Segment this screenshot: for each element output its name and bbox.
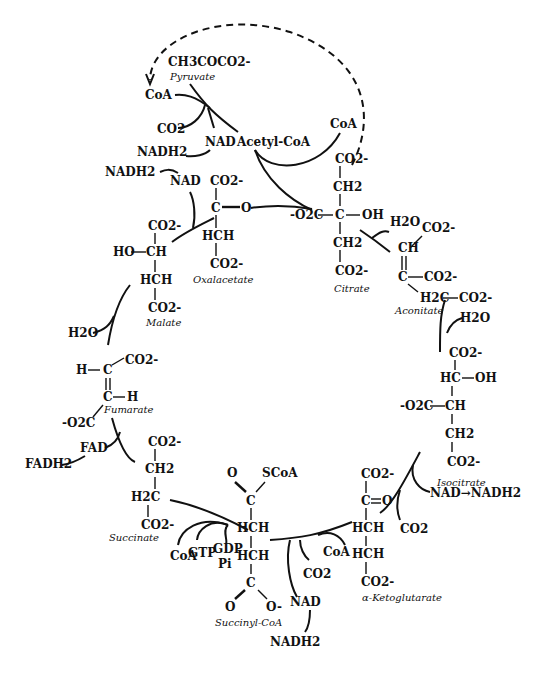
a-ketoglutarate-label: α-Ketoglutarate xyxy=(362,592,442,603)
aconitate-label: Aconitate xyxy=(394,305,443,316)
coa-released: CoA xyxy=(330,117,358,131)
akg-hch2: HCH xyxy=(352,547,384,561)
oxalacetate-label: Oxalacetate xyxy=(193,274,253,285)
acon-co2: CO2- xyxy=(422,221,455,235)
succ-ch2: CH2 xyxy=(145,462,174,476)
acetyl-coa-label: Acetyl-CoA xyxy=(236,135,311,149)
acon-c: C xyxy=(398,270,408,284)
coa-ketoglutarate: CoA xyxy=(323,545,351,559)
cit-co2b: CO2- xyxy=(335,264,368,278)
iso-oh: OH xyxy=(475,371,497,385)
akg-c: C xyxy=(361,494,371,508)
coa-cofactor: CoA xyxy=(145,88,173,102)
co2-ketoglutarate: CO2 xyxy=(303,567,331,581)
oxal-hch: HCH xyxy=(202,229,234,243)
iso-hc: HC xyxy=(440,371,461,385)
fumarate-label: Fumarate xyxy=(103,404,154,415)
cit-ch2: CH2 xyxy=(333,180,362,194)
cit-co2: CO2- xyxy=(335,152,368,166)
h2o-isocitrate: H2O xyxy=(460,311,490,325)
nadh2-malate: NADH2 xyxy=(105,165,155,179)
akg-hch: HCH xyxy=(352,521,384,535)
acon-co2b: CO2- xyxy=(424,270,457,284)
nad-nadh2-isocitrate: NAD→NADH2 xyxy=(430,486,521,500)
h2o-aconitate: H2O xyxy=(390,215,420,229)
iso-ch2: CH2 xyxy=(445,427,474,441)
fad: FAD xyxy=(80,441,108,455)
fum-h2: H xyxy=(127,390,138,404)
gtp: GTP xyxy=(188,546,216,560)
malate-co2b: CO2- xyxy=(148,301,181,315)
succ-co2b: CO2- xyxy=(141,518,174,532)
co2-cofactor: CO2 xyxy=(157,122,185,136)
fum-o2c: -O2C xyxy=(62,416,95,430)
pyruvate-label: Pyruvate xyxy=(169,71,215,82)
pyruvate-formula: CH3COCO2- xyxy=(168,55,251,69)
cit-oh: OH xyxy=(362,208,384,222)
akg-co2: CO2- xyxy=(361,467,394,481)
scoa-hch2: HCH xyxy=(237,549,269,563)
succinate-label: Succinate xyxy=(109,532,159,543)
scoa-o-minus: O- xyxy=(266,600,282,614)
scoa-c2: C xyxy=(246,576,256,590)
scoa-o: O xyxy=(227,466,237,480)
succinyl-coa-label: Succinyl-CoA xyxy=(215,617,282,628)
malate-hch: HCH xyxy=(140,273,172,287)
fum-co2: CO2- xyxy=(125,353,158,367)
nad-ketoglutarate: NAD xyxy=(290,595,321,609)
iso-ch: CH xyxy=(445,399,466,413)
fum-c1: C xyxy=(103,363,113,377)
oxal-o: O xyxy=(241,201,251,215)
malate-ch: CH xyxy=(146,245,167,259)
iso-o2c: -O2C xyxy=(400,399,433,413)
scoa-c: C xyxy=(246,494,256,508)
nadh2-ketoglutarate: NADH2 xyxy=(270,635,320,649)
nadh2-cofactor: NADH2 xyxy=(137,145,187,159)
pi: Pi xyxy=(218,557,232,571)
scoa-o2: O xyxy=(225,600,235,614)
malate-co2: CO2- xyxy=(148,219,181,233)
nad-malate: NAD xyxy=(170,174,201,188)
citrate-label: Citrate xyxy=(334,283,370,294)
oxal-c: C xyxy=(211,201,221,215)
iso-co2: CO2- xyxy=(449,346,482,360)
krebs-cycle-diagram: CH3COCO2- Pyruvate CoA CO2 NAD Acetyl-Co… xyxy=(0,0,540,676)
nad-cofactor: NAD xyxy=(205,135,236,149)
acon-co2c: CO2- xyxy=(459,291,492,305)
scoa-hch: HCH xyxy=(237,521,269,535)
co2-isocitrate: CO2 xyxy=(400,522,428,536)
succ-h2c: H2C xyxy=(131,490,160,504)
oxal-co2: CO2- xyxy=(210,174,243,188)
malate-label: Malate xyxy=(145,317,181,328)
cit-c: C xyxy=(335,208,345,222)
acon-ch: CH xyxy=(398,241,419,255)
arrowhead xyxy=(146,74,154,84)
cit-ch2b: CH2 xyxy=(333,236,362,250)
fum-h: H xyxy=(76,363,87,377)
scoa-scoa: SCoA xyxy=(262,466,298,480)
oxal-co2b: CO2- xyxy=(210,257,243,271)
akg-co2b: CO2- xyxy=(361,575,394,589)
succ-co2: CO2- xyxy=(148,435,181,449)
iso-co2b: CO2- xyxy=(447,455,480,469)
fum-c2: C xyxy=(103,390,113,404)
